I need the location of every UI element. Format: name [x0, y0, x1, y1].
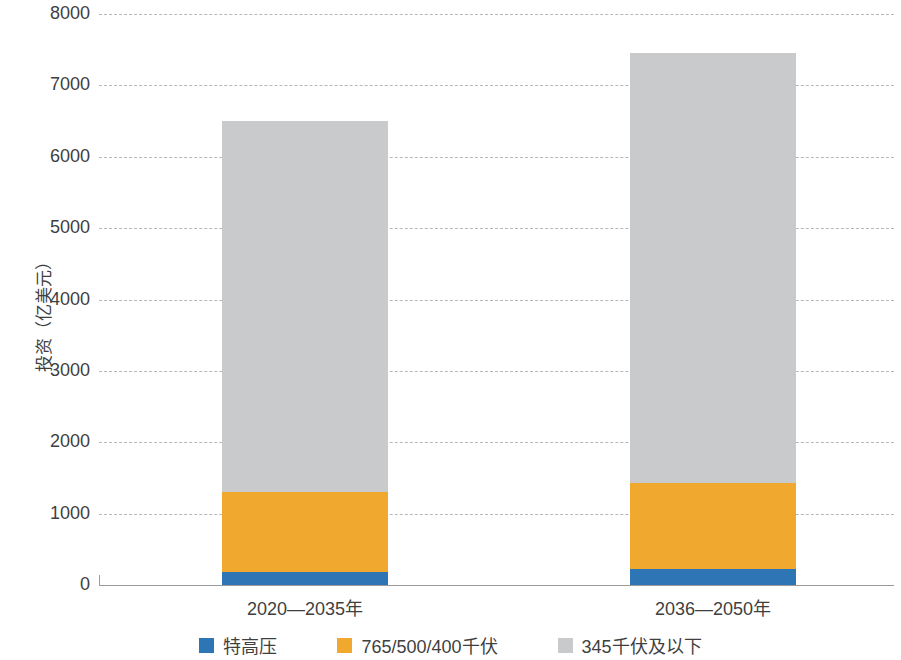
gridline-8000 [99, 14, 894, 15]
y-axis-tick-labels: 010002000300040005000600070008000 [0, 14, 90, 585]
legend-label: 345千伏及以下 [582, 632, 702, 658]
y-tick-label: 6000 [6, 147, 90, 165]
bar-segment [222, 492, 388, 573]
bar-segment [222, 121, 388, 491]
bar-2 [630, 53, 796, 585]
y-tick-label: 2000 [6, 432, 90, 450]
y-tick-label: 8000 [6, 4, 90, 22]
x-axis-line [99, 585, 894, 586]
bar-segment [630, 483, 796, 569]
y-tick-label: 7000 [6, 75, 90, 93]
legend-item-1[interactable]: 特高压 [199, 632, 277, 658]
bar-1 [222, 121, 388, 585]
bar-segment [630, 569, 796, 585]
bar-segment [630, 53, 796, 483]
stacked-bar-chart: 投资（亿美元） 01000200030004000500060007000800… [0, 0, 901, 660]
legend-swatch-icon [337, 638, 352, 653]
chart-legend: 特高压765/500/400千伏345千伏及以下 [0, 632, 901, 658]
y-axis-line [99, 575, 100, 586]
legend-item-2[interactable]: 765/500/400千伏 [337, 632, 497, 658]
legend-swatch-icon [558, 638, 573, 653]
y-tick-label: 0 [6, 575, 90, 593]
plot-area [99, 14, 894, 585]
legend-label: 特高压 [223, 632, 277, 658]
y-tick-label: 4000 [6, 290, 90, 308]
x-tick-label: 2036—2050年 [583, 594, 843, 620]
x-tick-label: 2020—2035年 [175, 594, 435, 620]
y-tick-label: 1000 [6, 504, 90, 522]
legend-swatch-icon [199, 638, 214, 653]
y-tick-label: 5000 [6, 218, 90, 236]
legend-label: 765/500/400千伏 [361, 632, 497, 658]
legend-item-3[interactable]: 345千伏及以下 [558, 632, 702, 658]
bar-segment [222, 572, 388, 585]
y-tick-label: 3000 [6, 361, 90, 379]
